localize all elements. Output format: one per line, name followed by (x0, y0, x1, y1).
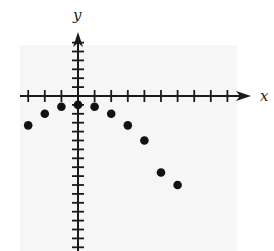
plot-background (20, 45, 237, 251)
data-point (107, 110, 116, 119)
y-axis-label: y (72, 6, 82, 24)
data-point (57, 102, 66, 111)
data-point (24, 121, 33, 130)
data-point (124, 121, 133, 130)
data-point (173, 181, 182, 190)
data-point (157, 168, 166, 177)
data-point (140, 136, 149, 145)
scatter-chart: x y (0, 0, 274, 251)
data-point (90, 102, 99, 111)
data-point (41, 110, 50, 119)
data-point (74, 101, 83, 110)
x-axis-label: x (260, 87, 269, 105)
